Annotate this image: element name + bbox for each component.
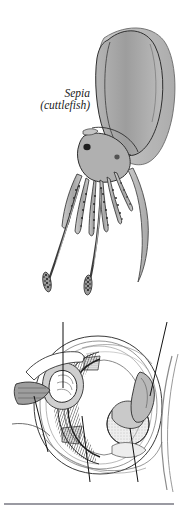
footer-rule bbox=[4, 503, 174, 505]
eye bbox=[83, 144, 90, 150]
cornea-inner bbox=[167, 354, 178, 492]
tentacle-club-right bbox=[83, 275, 92, 296]
species-caption: Sepia (cuttlefish) bbox=[18, 88, 90, 111]
trailing-arm bbox=[128, 168, 148, 282]
eye-far bbox=[114, 155, 119, 160]
feeding-tentacle-left bbox=[46, 186, 79, 288]
cartilage-block-upper bbox=[84, 356, 100, 370]
organism-panel: Sepia (cuttlefish) bbox=[0, 0, 196, 300]
species-common-name: (cuttlefish) bbox=[18, 100, 90, 112]
cornea bbox=[161, 356, 172, 490]
cephalopod-figure: Sepia (cuttlefish) bbox=[0, 0, 196, 518]
eye-diagram-panel: Optic ganglion Iris Optic nerve Retina L… bbox=[0, 300, 196, 518]
organism-illustration bbox=[0, 0, 196, 300]
eye-cross-section bbox=[0, 300, 196, 518]
species-name: Sepia bbox=[18, 88, 90, 100]
